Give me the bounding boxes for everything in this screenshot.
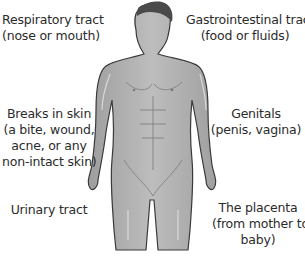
label-breaks-in-skin: Breaks in skin (a bite, wound, acne, or …: [2, 106, 96, 170]
label-genitals: Genitals (penis, vagina): [210, 106, 302, 138]
label-gastrointestinal-tract: Gastrointestinal tract (food or fluids): [186, 12, 304, 44]
label-placenta: The placenta (from mother to baby): [212, 200, 304, 248]
label-urinary-tract: Urinary tract: [4, 202, 94, 218]
label-respiratory-tract: Respiratory tract (nose or mouth): [2, 12, 98, 44]
